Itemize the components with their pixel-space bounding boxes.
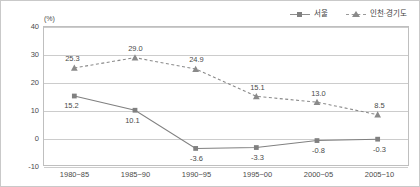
y-axis-tick-label: 40 <box>31 23 39 31</box>
data-point-value-label: 15.1 <box>250 84 265 92</box>
y-axis-unit-label: (%) <box>44 15 55 22</box>
gridline <box>44 167 408 168</box>
y-axis-tick-label: -10 <box>28 163 39 171</box>
data-point-value-label: 15.2 <box>64 103 79 111</box>
data-point-value-label: -3.6 <box>190 155 203 163</box>
data-point-value-label: 10.1 <box>125 117 140 125</box>
data-point-square-marker <box>375 137 380 142</box>
legend-item-incheon-gyeonggi[interactable]: 인천·경기도 <box>346 10 408 19</box>
legend-label-incheon-gyeonggi: 인천·경기도 <box>370 10 408 18</box>
legend-label-seoul: 서울 <box>314 10 328 18</box>
plot-area: 403020100-10 15.210.1-3.6-3.3-0.8-0.325.… <box>43 26 409 166</box>
data-point-triangle-marker <box>374 111 381 117</box>
x-axis-tick-label: 1980~85 <box>60 171 89 179</box>
data-point-value-label: 25.3 <box>65 55 80 63</box>
data-point-square-marker <box>193 146 198 151</box>
chart-figure: 서울 인천·경기도 (%) 403020100-10 15.210.1-3.6-… <box>0 0 420 187</box>
data-point-value-label: -0.8 <box>312 147 325 155</box>
data-point-square-marker <box>72 94 77 99</box>
x-axis-tick-label: 2005~10 <box>365 171 394 179</box>
data-point-triangle-marker <box>132 54 139 60</box>
data-point-square-marker <box>254 145 259 150</box>
y-axis-tick-label: 30 <box>31 51 39 59</box>
data-point-value-label: -3.3 <box>251 154 264 162</box>
x-axis-tick-label: 1990~95 <box>182 171 211 179</box>
y-axis-tick-label: 10 <box>31 107 39 115</box>
chart-legend: 서울 인천·경기도 <box>290 7 408 21</box>
series-line <box>74 96 377 148</box>
series-lines <box>44 27 408 166</box>
legend-marker-triangle-icon <box>346 10 366 19</box>
x-axis-tick-label: 2000~05 <box>304 171 333 179</box>
data-point-square-marker <box>315 138 320 143</box>
x-axis-tick-label: 1985~90 <box>121 171 150 179</box>
data-point-value-label: 13.0 <box>311 90 326 98</box>
legend-marker-square-icon <box>290 10 310 19</box>
x-axis-tick-label: 1995~00 <box>243 171 272 179</box>
y-axis-tick-label: 0 <box>35 135 39 143</box>
y-axis-tick-label: 20 <box>31 79 39 87</box>
data-point-value-label: -0.3 <box>373 146 386 154</box>
data-point-square-marker <box>133 108 138 113</box>
data-point-value-label: 8.5 <box>374 102 384 110</box>
data-point-value-label: 29.0 <box>128 45 143 53</box>
data-point-value-label: 24.9 <box>189 57 204 65</box>
legend-item-seoul[interactable]: 서울 <box>290 10 328 19</box>
